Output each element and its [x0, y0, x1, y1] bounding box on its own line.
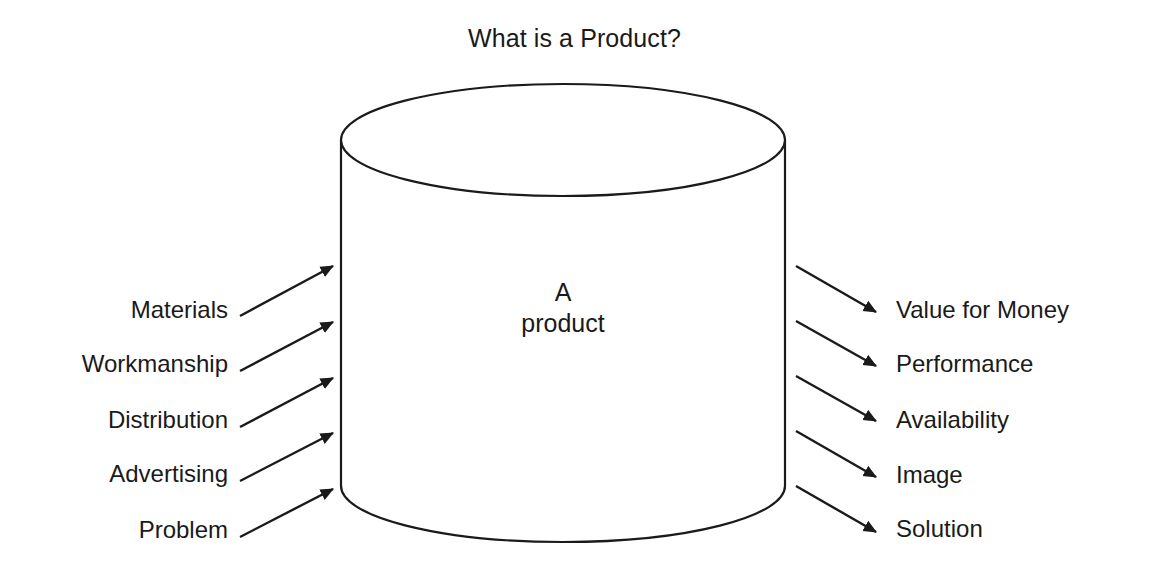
input-arrow-group [240, 266, 333, 537]
output-label-performance: Performance [896, 352, 1033, 376]
output-label-availability: Availability [896, 408, 1009, 432]
input-label-problem: Problem [139, 518, 228, 542]
input-label-distribution: Distribution [108, 408, 228, 432]
input-arrow-distribution [240, 378, 333, 427]
input-label-advertising: Advertising [109, 462, 228, 486]
output-arrow-value-for-money [796, 266, 876, 312]
cylinder-center-label: A product [521, 277, 604, 340]
input-arrow-advertising [240, 433, 333, 481]
product-diagram: What is a Product? A product Material [0, 0, 1149, 584]
input-label-materials: Materials [131, 298, 228, 322]
output-arrow-group [796, 266, 876, 532]
output-label-value-for-money: Value for Money [896, 298, 1069, 322]
input-arrow-workmanship [240, 322, 333, 371]
output-label-image: Image [896, 463, 963, 487]
output-arrow-solution [796, 486, 876, 532]
output-arrow-performance [796, 321, 876, 366]
output-arrow-image [796, 431, 876, 477]
output-arrow-availability [796, 376, 876, 421]
output-label-solution: Solution [896, 517, 983, 541]
cylinder-body [341, 140, 785, 542]
input-arrow-materials [240, 266, 333, 316]
input-arrow-problem [240, 489, 333, 537]
cylinder-top-ellipse [341, 84, 785, 196]
input-label-workmanship: Workmanship [82, 352, 228, 376]
